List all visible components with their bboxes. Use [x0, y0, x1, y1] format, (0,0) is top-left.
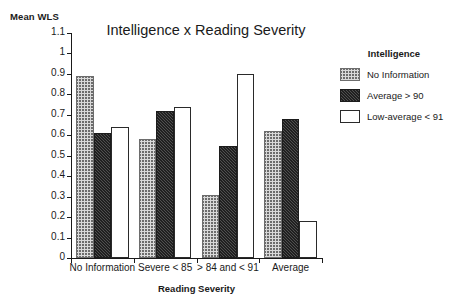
bar [299, 221, 317, 258]
bar [219, 146, 237, 259]
x-category-label: > 84 and < 91 [197, 262, 259, 273]
y-tick-label: 0.2 [51, 210, 65, 221]
y-tick-mark [67, 238, 71, 239]
legend-item[interactable]: Average > 90 [340, 89, 452, 102]
y-tick-mark [67, 33, 71, 34]
legend-label: Low-average < 91 [367, 111, 443, 122]
x-category-label: Average [272, 262, 309, 273]
bar [202, 195, 220, 258]
bar [174, 107, 192, 258]
legend-item[interactable]: No Information [340, 68, 452, 81]
legend-label: Average > 90 [367, 90, 424, 101]
y-axis-line [71, 33, 72, 259]
legend-item[interactable]: Low-average < 91 [340, 110, 452, 123]
y-axis-title: Mean WLS [10, 11, 59, 22]
chart-figure: Mean WLS Intelligence x Reading Severity… [0, 0, 454, 308]
y-tick-label: 0.8 [51, 87, 65, 98]
y-tick-mark [67, 217, 71, 218]
y-tick-mark [67, 156, 71, 157]
y-tick-mark [67, 74, 71, 75]
bar [237, 74, 255, 258]
y-tick-mark [67, 94, 71, 95]
bar [139, 139, 157, 258]
legend: Intelligence No InformationAverage > 90L… [340, 48, 452, 131]
y-tick-mark [67, 197, 71, 198]
y-tick-mark [67, 53, 71, 54]
plot-area: 00.10.20.30.40.50.60.70.80.911.1 [71, 33, 322, 258]
legend-items: No InformationAverage > 90Low-average < … [340, 68, 452, 123]
legend-swatch [340, 110, 360, 123]
legend-swatch [340, 68, 360, 81]
x-tick-mark [322, 259, 323, 263]
y-tick-label: 0.6 [51, 128, 65, 139]
y-tick-label: 0.9 [51, 67, 65, 78]
y-tick-mark [67, 135, 71, 136]
y-tick-label: 0.5 [51, 149, 65, 160]
legend-label: No Information [367, 69, 429, 80]
x-axis-title: Reading Severity [71, 283, 322, 294]
bar [111, 127, 129, 258]
y-tick-label: 1.1 [51, 26, 65, 37]
bar [282, 119, 300, 258]
bar [156, 111, 174, 258]
legend-title: Intelligence [342, 48, 446, 59]
y-tick-label: 0.3 [51, 190, 65, 201]
y-tick-label: 1 [59, 46, 65, 57]
y-tick-label: 0.4 [51, 169, 65, 180]
bar [76, 76, 94, 258]
x-tick-mark [259, 259, 260, 263]
x-category-label: No Information [70, 262, 136, 273]
y-tick-label: 0.1 [51, 231, 65, 242]
y-tick-mark [67, 115, 71, 116]
legend-swatch [340, 89, 360, 102]
x-category-label: Severe < 85 [138, 262, 192, 273]
y-tick-label: 0 [59, 251, 65, 262]
y-tick-mark [67, 176, 71, 177]
bar [94, 133, 112, 258]
bar [264, 131, 282, 258]
y-tick-label: 0.7 [51, 108, 65, 119]
